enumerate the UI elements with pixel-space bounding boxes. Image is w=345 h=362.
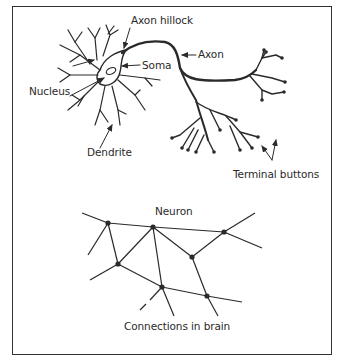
label-connections-in-brain: Connections in brain <box>124 320 230 332</box>
label-neuron: Neuron <box>155 205 193 217</box>
network-nodes <box>105 220 226 298</box>
terminal-branch-upper <box>250 50 285 100</box>
terminal-branch-lower <box>172 102 258 152</box>
label-terminal-buttons: Terminal buttons <box>233 168 319 180</box>
label-soma: Soma <box>142 59 171 71</box>
label-nucleus: Nucleus <box>29 85 70 97</box>
label-dendrite: Dendrite <box>87 146 132 158</box>
neuron-illustration <box>0 0 345 362</box>
label-axon-hillock: Axon hillock <box>131 14 193 26</box>
label-axon: Axon <box>198 48 224 60</box>
network-diagram <box>82 213 262 316</box>
